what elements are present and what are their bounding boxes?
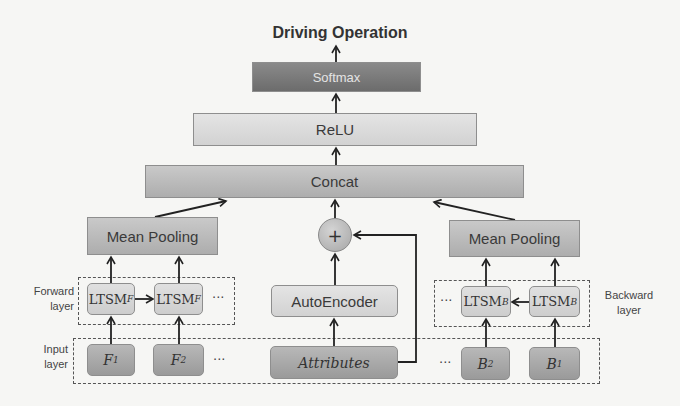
attributes-input: Attributes <box>270 346 398 379</box>
ltsm-backward-cell-1: LTSMB <box>529 286 580 317</box>
input-f2: F2 <box>153 344 204 376</box>
input-f1: F1 <box>87 344 135 376</box>
backward-ellipsis: ··· <box>440 293 452 308</box>
plus-icon: + <box>327 225 342 246</box>
forward-layer-label: Forward layer <box>10 284 74 314</box>
mean-pooling-right-label: Mean Pooling <box>469 230 561 247</box>
ltsm-backward-cell-2: LTSMB <box>461 286 511 317</box>
combine-node: + <box>318 218 352 252</box>
concat-layer: Concat <box>145 165 524 198</box>
input-b1: B1 <box>529 347 580 380</box>
softmax-layer: Softmax <box>252 62 421 92</box>
input-right-ellipsis: ··· <box>439 355 451 370</box>
softmax-label: Softmax <box>313 70 361 85</box>
mean-pooling-left: Mean Pooling <box>87 217 218 255</box>
mean-pooling-left-label: Mean Pooling <box>107 228 199 245</box>
concat-label: Concat <box>311 173 359 190</box>
ltsm-forward-cell-1: LTSMF <box>87 283 135 315</box>
mean-pooling-right: Mean Pooling <box>449 220 580 257</box>
input-left-ellipsis: ··· <box>213 352 225 367</box>
relu-layer: ReLU <box>193 113 477 146</box>
input-layer-label: Input layer <box>10 342 68 372</box>
forward-ellipsis: ··· <box>212 290 224 305</box>
relu-label: ReLU <box>316 121 354 138</box>
output-title: Driving Operation <box>240 24 440 42</box>
autoencoder-label: AutoEncoder <box>291 293 378 310</box>
backward-layer-label: Backward layer <box>594 288 664 318</box>
input-b2: B2 <box>461 347 510 380</box>
ltsm-forward-cell-2: LTSMF <box>154 283 203 315</box>
autoencoder-block: AutoEncoder <box>271 285 398 317</box>
